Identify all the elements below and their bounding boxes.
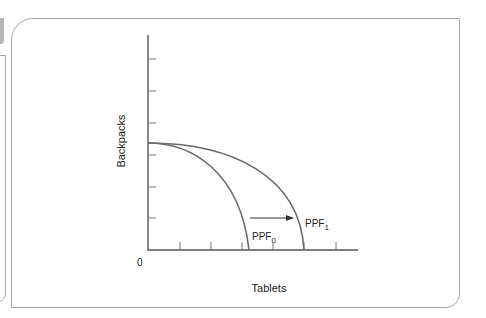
x-axis — [148, 242, 359, 250]
x-axis-title: Tablets — [252, 282, 287, 294]
ppf-chart: PPF0 PPF1 0 Tablets Backpacks — [0, 0, 486, 318]
origin-label: 0 — [137, 257, 143, 268]
ppf0-curve — [148, 143, 249, 250]
ppf0-label: PPF0 — [252, 231, 276, 245]
ppf1-label: PPF1 — [305, 218, 329, 232]
y-axis-title: Backpacks — [115, 114, 127, 168]
ppf1-curve — [148, 143, 304, 250]
